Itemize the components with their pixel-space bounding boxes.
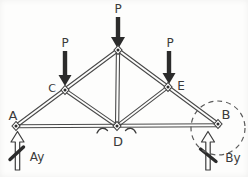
load-c-label: P [61, 36, 68, 50]
reaction-arrow-a [10, 132, 24, 171]
joint-c-label: C [48, 82, 56, 95]
reaction-b-label: By [225, 151, 240, 165]
joint-d-label: D [113, 134, 123, 149]
joint-marker-e [164, 83, 172, 92]
joint-b-label: B [222, 107, 231, 122]
truss-diagram-canvas: A B C D E P P P Ay By [0, 0, 248, 177]
load-apex-label: P [114, 2, 121, 16]
load-arrow-e [163, 51, 176, 84]
joint-a-label: A [9, 108, 18, 123]
load-arrow-apex [111, 17, 125, 49]
joint-e-label: E [177, 79, 185, 93]
joint-marker-apex [114, 46, 122, 55]
truss-free-body-diagram: A B C D E P P P Ay By [0, 0, 248, 177]
load-arrow-c [59, 51, 72, 86]
joint-markers [12, 46, 222, 131]
load-e-label: P [166, 36, 173, 50]
reaction-a-label: Ay [30, 150, 45, 164]
truss-members [14, 49, 220, 128]
